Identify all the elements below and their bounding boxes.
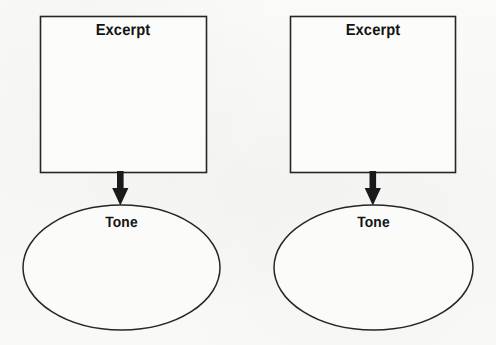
arrow-excerpt-to-tone-left xyxy=(112,171,128,206)
diagram-canvas: Excerpt Tone Excerpt Tone xyxy=(0,0,496,345)
excerpt-box-left-label: Excerpt xyxy=(47,22,200,40)
node-group-right xyxy=(274,17,473,331)
tone-oval-right-label: Tone xyxy=(282,214,465,231)
tone-oval-left-label: Tone xyxy=(31,214,212,231)
arrow-excerpt-to-tone-right xyxy=(365,171,381,206)
diagram-vector-layer xyxy=(0,0,496,345)
node-group-left xyxy=(23,17,220,331)
excerpt-box-right-label: Excerpt xyxy=(297,22,450,40)
